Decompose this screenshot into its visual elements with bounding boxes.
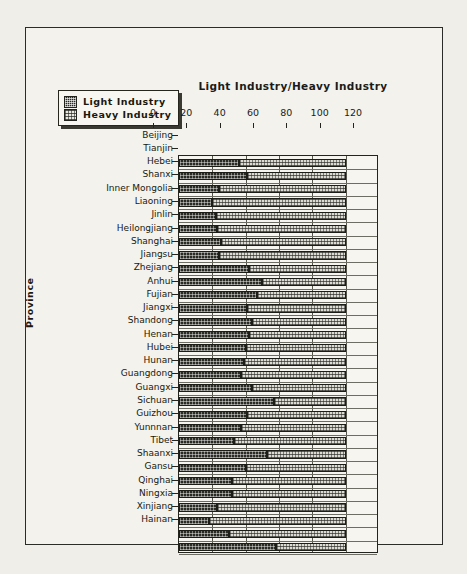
bar-segment-light-industry[interactable]	[179, 212, 216, 220]
bar-segment-light-industry[interactable]	[179, 291, 257, 299]
bar-segment-light-industry[interactable]	[179, 503, 217, 511]
bar-segment-light-industry[interactable]	[179, 251, 219, 259]
bar-segment-light-industry[interactable]	[179, 517, 209, 525]
bar-segment-light-industry[interactable]	[179, 490, 232, 498]
bar-segment-light-industry[interactable]	[179, 464, 246, 472]
bar-segment-heavy-industry[interactable]	[234, 437, 346, 445]
bar-row[interactable]	[179, 318, 379, 326]
row-separator	[179, 514, 377, 515]
bar-segment-light-industry[interactable]	[179, 265, 249, 273]
bar-row[interactable]	[179, 411, 379, 419]
bar-segment-heavy-industry[interactable]	[219, 251, 346, 259]
bar-segment-light-industry[interactable]	[179, 437, 234, 445]
bar-row[interactable]	[179, 543, 379, 551]
bar-segment-light-industry[interactable]	[179, 411, 247, 419]
row-separator	[179, 435, 377, 436]
bar-segment-heavy-industry[interactable]	[249, 265, 346, 273]
bar-segment-heavy-industry[interactable]	[219, 185, 346, 193]
bar-segment-heavy-industry[interactable]	[239, 159, 346, 167]
bar-row[interactable]	[179, 172, 379, 180]
bar-segment-light-industry[interactable]	[179, 304, 247, 312]
bar-segment-heavy-industry[interactable]	[209, 517, 346, 525]
bar-segment-light-industry[interactable]	[179, 185, 219, 193]
bar-segment-light-industry[interactable]	[179, 318, 252, 326]
y-tick-label: Anhui	[147, 276, 173, 286]
bar-row[interactable]	[179, 212, 379, 220]
bar-segment-light-industry[interactable]	[179, 172, 247, 180]
bar-segment-heavy-industry[interactable]	[262, 278, 345, 286]
row-separator	[179, 461, 377, 462]
bar-row[interactable]	[179, 344, 379, 352]
bar-segment-heavy-industry[interactable]	[249, 331, 346, 339]
bar-row[interactable]	[179, 424, 379, 432]
bar-segment-heavy-industry[interactable]	[247, 172, 345, 180]
bar-segment-heavy-industry[interactable]	[247, 411, 345, 419]
bar-row[interactable]	[179, 225, 379, 233]
bar-segment-heavy-industry[interactable]	[252, 318, 345, 326]
bar-row[interactable]	[179, 238, 379, 246]
bar-segment-heavy-industry[interactable]	[217, 503, 345, 511]
bar-row[interactable]	[179, 185, 379, 193]
bar-segment-light-industry[interactable]	[179, 530, 229, 538]
bar-row[interactable]	[179, 291, 379, 299]
bar-row[interactable]	[179, 503, 379, 511]
bar-row[interactable]	[179, 397, 379, 405]
bar-segment-heavy-industry[interactable]	[229, 530, 346, 538]
bar-row[interactable]	[179, 278, 379, 286]
bar-segment-heavy-industry[interactable]	[232, 477, 345, 485]
bar-segment-heavy-industry[interactable]	[257, 291, 345, 299]
bar-segment-heavy-industry[interactable]	[241, 424, 346, 432]
bar-segment-heavy-industry[interactable]	[212, 198, 345, 206]
bar-segment-heavy-industry[interactable]	[252, 384, 345, 392]
bar-row[interactable]	[179, 437, 379, 445]
bar-segment-heavy-industry[interactable]	[274, 397, 346, 405]
bar-segment-heavy-industry[interactable]	[232, 490, 345, 498]
bar-segment-light-industry[interactable]	[179, 198, 212, 206]
bar-segment-light-industry[interactable]	[179, 384, 252, 392]
bar-segment-light-industry[interactable]	[179, 278, 262, 286]
bar-segment-light-industry[interactable]	[179, 331, 249, 339]
bar-segment-light-industry[interactable]	[179, 225, 217, 233]
row-separator	[179, 328, 377, 329]
bar-row[interactable]	[179, 159, 379, 167]
bar-segment-heavy-industry[interactable]	[247, 304, 345, 312]
bar-row[interactable]	[179, 304, 379, 312]
x-tick-mark	[320, 123, 321, 128]
bar-row[interactable]	[179, 490, 379, 498]
bar-row[interactable]	[179, 477, 379, 485]
bar-row[interactable]	[179, 530, 379, 538]
bar-segment-heavy-industry[interactable]	[246, 464, 346, 472]
bar-segment-heavy-industry[interactable]	[217, 225, 345, 233]
bar-segment-light-industry[interactable]	[179, 397, 274, 405]
bar-row[interactable]	[179, 331, 379, 339]
bar-segment-heavy-industry[interactable]	[276, 543, 346, 551]
bar-row[interactable]	[179, 517, 379, 525]
bar-row[interactable]	[179, 265, 379, 273]
bar-row[interactable]	[179, 371, 379, 379]
bar-segment-heavy-industry[interactable]	[244, 358, 346, 366]
bar-segment-light-industry[interactable]	[179, 371, 241, 379]
bar-segment-light-industry[interactable]	[179, 159, 239, 167]
bar-row[interactable]	[179, 464, 379, 472]
bar-segment-light-industry[interactable]	[179, 543, 276, 551]
bar-segment-light-industry[interactable]	[179, 344, 246, 352]
bar-segment-light-industry[interactable]	[179, 477, 232, 485]
y-tick-label: Qinghai	[138, 475, 173, 485]
bar-segment-heavy-industry[interactable]	[246, 344, 346, 352]
bar-segment-heavy-industry[interactable]	[216, 212, 346, 220]
y-tick-label: Hubei	[147, 342, 173, 352]
bar-row[interactable]	[179, 384, 379, 392]
bar-segment-light-industry[interactable]	[179, 238, 221, 246]
legend-label-light-industry: Light Industry	[83, 96, 166, 107]
bar-row[interactable]	[179, 358, 379, 366]
bar-segment-heavy-industry[interactable]	[241, 371, 346, 379]
x-tick-label: 20	[180, 107, 192, 118]
bar-row[interactable]	[179, 450, 379, 458]
bar-segment-heavy-industry[interactable]	[267, 450, 345, 458]
bar-segment-heavy-industry[interactable]	[221, 238, 346, 246]
bar-row[interactable]	[179, 251, 379, 259]
bar-row[interactable]	[179, 198, 379, 206]
bar-segment-light-industry[interactable]	[179, 424, 241, 432]
bar-segment-light-industry[interactable]	[179, 450, 267, 458]
bar-segment-light-industry[interactable]	[179, 358, 244, 366]
